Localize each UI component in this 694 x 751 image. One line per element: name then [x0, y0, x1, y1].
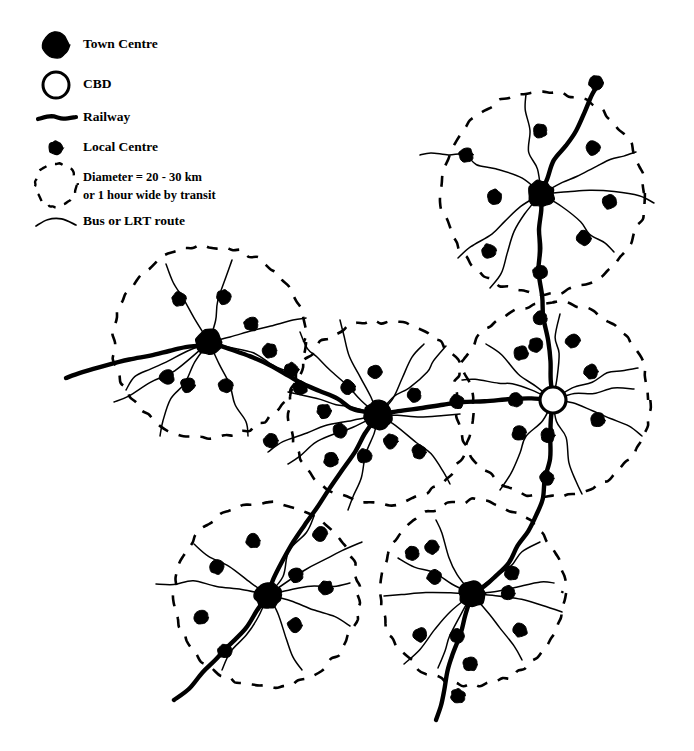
local-centre [293, 381, 307, 395]
local-centre [463, 657, 478, 671]
local-centre-dot [218, 379, 233, 393]
local-centre [218, 644, 233, 657]
local-centre-dot [514, 346, 529, 360]
local-centre-dot [533, 265, 548, 278]
local-centre-dot [602, 194, 616, 209]
local-centre [505, 566, 519, 580]
local-centre-dot [218, 644, 233, 657]
local-centre [533, 265, 548, 278]
local-centre [210, 560, 224, 575]
local-centre-dot [534, 124, 547, 138]
local-centre [514, 346, 529, 360]
local-centre [534, 124, 547, 138]
local-centre [324, 452, 339, 466]
local-centre [450, 394, 464, 408]
local-centre-dot [293, 381, 307, 395]
local-centre-dot [459, 148, 474, 162]
cbd-node [540, 387, 566, 413]
legend-swatch-cbd-icon [43, 72, 69, 98]
legend-label-catchment-circle-line2: or 1 hour wide by transit [83, 188, 216, 202]
local-centre [459, 148, 474, 162]
local-centre [591, 413, 606, 427]
local-centre [244, 317, 258, 331]
local-centre [509, 393, 523, 407]
local-centre-dot [262, 343, 277, 358]
local-centre-dot [541, 428, 555, 443]
local-centre-dot [463, 657, 478, 671]
local-centre-dot [529, 338, 543, 352]
local-centre-dot [244, 317, 258, 331]
local-centre [602, 194, 616, 209]
legend-label-town-centre: Town Centre [83, 36, 158, 51]
legend-swatch-railway-icon [38, 116, 76, 119]
local-centre [529, 338, 543, 352]
local-centre [541, 428, 555, 443]
local-centre-dot [512, 426, 527, 440]
local-centre [512, 426, 527, 440]
local-centre-dot [505, 566, 519, 580]
local-centre-dot [405, 546, 419, 560]
local-centre-dot [194, 610, 209, 624]
legend-label-bus-lrt-route: Bus or LRT route [83, 213, 185, 228]
legend-label-railway: Railway [83, 109, 131, 124]
local-centre [218, 379, 233, 393]
local-centre [357, 449, 372, 463]
local-centre-dot [324, 452, 339, 466]
legend-label-local-centre: Local Centre [83, 139, 158, 154]
local-centre-dot [210, 560, 224, 575]
local-centre-dot [357, 449, 372, 463]
local-centre [262, 343, 277, 358]
local-centre-dot [450, 394, 464, 408]
local-centre-dot [591, 413, 606, 427]
diagram-root: Town CentreCBDRailwayLocal CentreDiamete… [0, 0, 694, 751]
local-centre [194, 610, 209, 624]
local-centre [318, 581, 333, 595]
legend-label-catchment-circle: Diameter = 20 - 30 km [83, 170, 203, 184]
legend-label-cbd: CBD [83, 76, 112, 91]
urban-structure-map: Town CentreCBDRailwayLocal CentreDiamete… [0, 0, 694, 751]
local-centre-dot [318, 581, 333, 595]
local-centre-dot [509, 393, 523, 407]
local-centre [405, 546, 419, 560]
